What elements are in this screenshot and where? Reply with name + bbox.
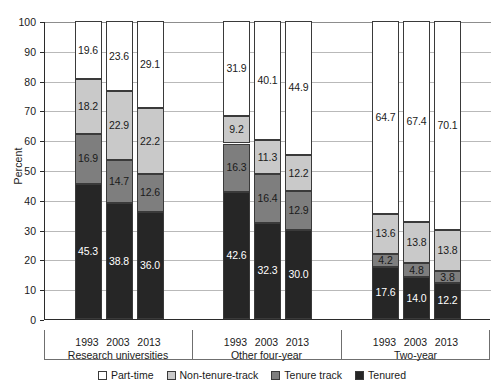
bar-segment-ten: 32.3 [254, 223, 281, 319]
bar-segment-nontt: 9.2 [223, 116, 250, 143]
bar-segment-ten: 12.2 [434, 283, 461, 319]
bar-segment-tt: 3.8 [434, 271, 461, 282]
legend-swatch-icon [167, 371, 176, 380]
bar-segment-nontt: 22.2 [137, 108, 164, 174]
bar-segment-tt: 16.4 [254, 174, 281, 223]
bar: 42.616.39.231.9 [223, 21, 250, 319]
bar-segment-tt: 12.9 [285, 191, 312, 229]
bar-segment-tt: 14.7 [106, 160, 133, 204]
bar-segment-ten: 42.6 [223, 192, 250, 319]
bar-segment-part: 64.7 [372, 21, 399, 214]
bar-value-label: 12.2 [288, 168, 308, 179]
bar-segment-part: 19.6 [75, 21, 102, 79]
bar-value-label: 11.3 [258, 152, 277, 163]
bar-segment-tt: 16.3 [223, 144, 250, 193]
bar-segment-tt: 4.2 [372, 254, 399, 267]
y-axis-label: 10 [2, 285, 36, 295]
bar-segment-part: 70.1 [434, 21, 461, 230]
bar-segment-tt: 16.9 [75, 134, 102, 184]
bar-value-label: 13.8 [437, 245, 457, 256]
bar-segment-nontt: 18.2 [75, 79, 102, 133]
y-axis-label: 50 [2, 166, 36, 176]
bar-segment-tt: 12.6 [137, 174, 164, 212]
legend-swatch-icon [271, 371, 280, 380]
bar-value-label: 18.2 [78, 101, 98, 112]
legend-item: Tenure track [271, 369, 342, 381]
y-axis-label: 90 [2, 47, 36, 57]
bar: 36.012.622.229.1 [137, 21, 164, 319]
bar-value-label: 32.3 [257, 265, 277, 276]
bar-value-label: 14.7 [109, 176, 129, 187]
bar-value-label: 38.8 [109, 256, 129, 267]
group-label: Research universities [44, 349, 192, 361]
bar: 17.64.213.664.7 [372, 21, 399, 319]
group-label: Other four-year [192, 349, 341, 361]
legend-item: Part-time [98, 369, 154, 381]
bar-segment-nontt: 13.8 [434, 230, 461, 271]
bar-value-label: 40.1 [257, 75, 277, 86]
bar-value-label: 22.9 [109, 120, 129, 131]
bar-segment-part: 29.1 [137, 21, 164, 108]
bar-value-label: 4.2 [378, 255, 392, 266]
bar-value-label: 19.6 [78, 45, 98, 56]
bar-value-label: 70.1 [437, 120, 457, 131]
bar-segment-part: 23.6 [106, 21, 133, 91]
y-axis-label: 80 [2, 77, 36, 87]
chart-legend: Part-timeNon-tenure-trackTenure trackTen… [0, 366, 504, 384]
bar-value-label: 29.1 [140, 59, 160, 70]
stacked-bar-chart: Percent 0102030405060708090100 45.316.91… [0, 0, 504, 388]
bar-value-label: 12.2 [437, 295, 457, 306]
bar: 32.316.411.340.1 [254, 21, 281, 319]
bar-value-label: 45.3 [78, 246, 98, 257]
bar-segment-nontt: 13.6 [372, 214, 399, 255]
bar-value-label: 42.6 [226, 250, 246, 261]
bar-value-label: 44.9 [288, 82, 308, 93]
bar: 45.316.918.219.6 [75, 21, 102, 319]
y-axis-label: 100 [2, 17, 36, 27]
bar-segment-part: 40.1 [254, 21, 281, 140]
bar-value-label: 12.6 [140, 187, 160, 198]
bar-value-label: 16.4 [257, 193, 277, 204]
bar-value-label: 13.6 [375, 228, 395, 239]
legend-item: Tenured [355, 369, 406, 381]
bar-value-label: 16.9 [78, 153, 98, 164]
bar-segment-tt: 4.8 [403, 263, 430, 277]
bar-value-label: 12.9 [288, 205, 308, 216]
y-axis-label: 70 [2, 106, 36, 116]
y-axis-label: 30 [2, 226, 36, 236]
legend-label: Tenure track [284, 369, 342, 381]
bar: 14.04.813.867.4 [403, 21, 430, 319]
legend-item: Non-tenure-track [167, 369, 259, 381]
bar-value-label: 4.8 [409, 265, 423, 276]
bar-segment-part: 31.9 [223, 21, 250, 116]
bar-segment-ten: 38.8 [106, 203, 133, 319]
bar-value-label: 36.0 [140, 260, 160, 271]
legend-label: Part-time [111, 369, 154, 381]
bar-value-label: 22.2 [140, 136, 160, 147]
bar-segment-nontt: 12.2 [285, 155, 312, 191]
legend-label: Tenured [368, 369, 406, 381]
bar: 12.23.813.870.1 [434, 21, 461, 319]
y-axis-label: 40 [2, 196, 36, 206]
bar-segment-ten: 36.0 [137, 212, 164, 319]
legend-label: Non-tenure-track [180, 369, 259, 381]
bar-segment-nontt: 13.8 [403, 222, 430, 263]
bar-value-label: 64.7 [375, 112, 395, 123]
bar: 30.012.912.244.9 [285, 21, 312, 319]
bar-segment-nontt: 11.3 [254, 140, 281, 174]
group-label: Two-year [341, 349, 490, 361]
bar-value-label: 14.0 [406, 293, 426, 304]
bar-value-label: 13.8 [406, 237, 426, 248]
bar-value-label: 67.4 [406, 116, 426, 127]
bar-segment-part: 44.9 [285, 21, 312, 155]
y-axis-tick [40, 320, 44, 321]
x-axis-year-label: 2013 [425, 336, 469, 348]
bar-value-label: 3.8 [440, 272, 454, 283]
legend-swatch-icon [355, 371, 364, 380]
bar: 38.814.722.923.6 [106, 21, 133, 319]
x-axis-year-label: 2013 [276, 336, 320, 348]
y-axis-label: 0 [2, 315, 36, 325]
bar-value-label: 23.6 [109, 51, 129, 62]
bar-segment-ten: 45.3 [75, 184, 102, 319]
bar-segment-part: 67.4 [403, 21, 430, 222]
